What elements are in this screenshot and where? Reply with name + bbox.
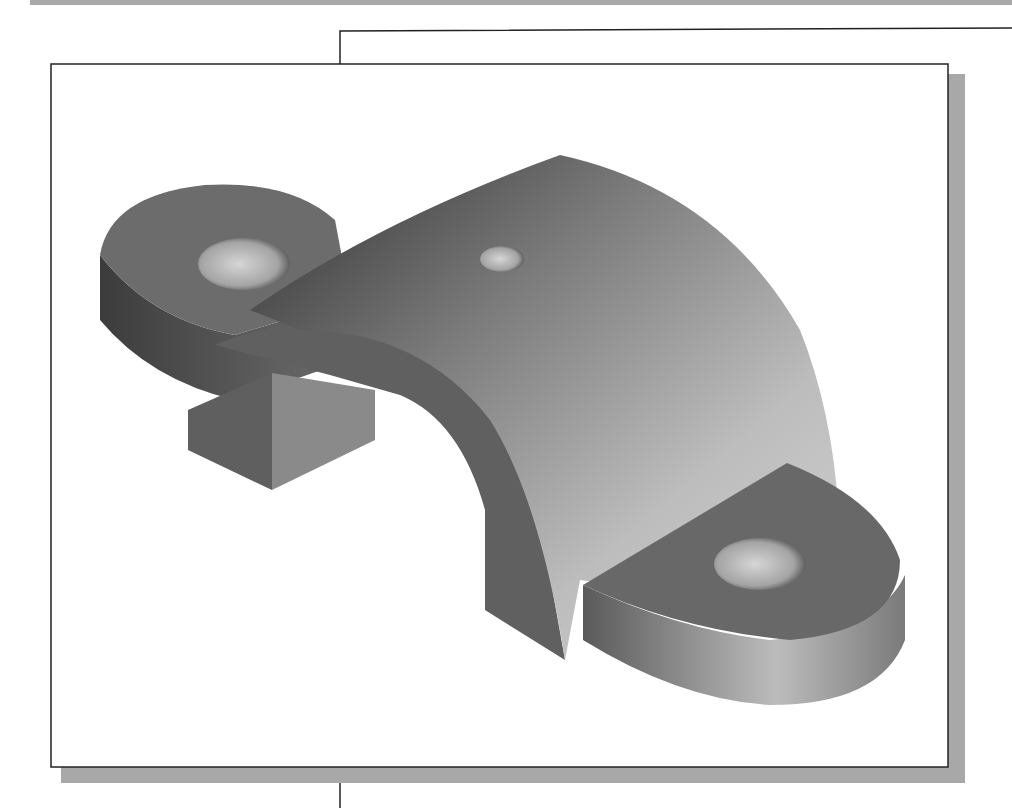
arch-top-hole xyxy=(480,246,524,272)
connector-line-top xyxy=(340,28,1012,64)
figure-canvas xyxy=(0,0,1012,808)
right-lug-hole xyxy=(714,538,806,590)
left-lug-hole xyxy=(198,238,290,290)
